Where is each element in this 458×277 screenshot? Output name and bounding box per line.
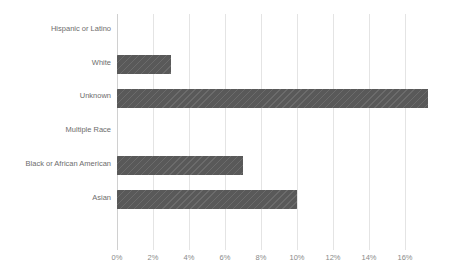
value-tick-2: 2% — [148, 254, 159, 262]
value-tick-12: 12% — [325, 254, 340, 262]
category-label-multiple-race: Multiple Race — [0, 126, 111, 134]
value-tick-8: 8% — [256, 254, 267, 262]
bar-chart: Hispanic or Latino White Unknown Multipl… — [0, 0, 458, 277]
bar-white[interactable] — [117, 55, 171, 74]
bar-row — [117, 183, 297, 217]
value-tick-6: 6% — [220, 254, 231, 262]
category-label-asian: Asian — [0, 194, 111, 202]
bar-unknown[interactable] — [117, 89, 428, 108]
bar-row — [117, 81, 428, 115]
bar-black-or-african-american[interactable] — [117, 156, 243, 175]
category-label-unknown: Unknown — [0, 92, 111, 100]
value-axis-labels: 0% 2% 4% 6% 8% 10% 12% 14% 16% — [117, 254, 441, 268]
bars — [117, 14, 441, 250]
value-tick-0: 0% — [112, 254, 123, 262]
value-tick-16: 16% — [397, 254, 412, 262]
category-label-hispanic-or-latino: Hispanic or Latino — [0, 25, 111, 33]
plot-area — [117, 14, 441, 250]
bar-row — [117, 149, 243, 183]
category-label-white: White — [0, 59, 111, 67]
category-label-black-or-african-american: Black or African American — [0, 160, 111, 168]
value-tick-14: 14% — [361, 254, 376, 262]
value-tick-10: 10% — [289, 254, 304, 262]
bar-row — [117, 48, 171, 82]
bar-asian[interactable] — [117, 190, 297, 209]
value-tick-4: 4% — [184, 254, 195, 262]
category-axis-labels: Hispanic or Latino White Unknown Multipl… — [0, 14, 111, 250]
